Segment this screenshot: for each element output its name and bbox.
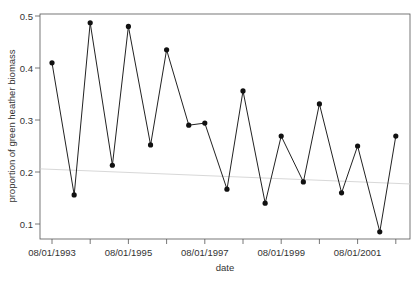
- data-point: [88, 20, 93, 25]
- x-tick-label: 08/01/1993: [28, 247, 76, 258]
- x-axis-title: date: [216, 262, 235, 273]
- data-points: [49, 20, 398, 234]
- y-tick-label: 0.2: [20, 167, 33, 178]
- line-chart: 0.10.20.30.40.5 08/01/199308/01/199508/0…: [0, 0, 418, 282]
- data-point: [126, 24, 131, 29]
- data-point: [279, 134, 284, 139]
- data-point: [148, 142, 153, 147]
- y-tick-label: 0.1: [20, 219, 33, 230]
- y-tick-label: 0.3: [20, 115, 33, 126]
- data-point: [110, 163, 115, 168]
- x-tick-label: 08/01/1999: [257, 247, 305, 258]
- data-point: [72, 192, 77, 197]
- x-tick-label: 08/01/1997: [181, 247, 229, 258]
- data-line: [52, 23, 396, 232]
- data-point: [301, 179, 306, 184]
- data-point: [393, 134, 398, 139]
- data-point: [377, 229, 382, 234]
- plot-frame: [40, 14, 410, 239]
- data-point: [355, 143, 360, 148]
- data-point: [49, 60, 54, 65]
- data-point: [339, 190, 344, 195]
- data-point: [164, 47, 169, 52]
- y-tick-label: 0.5: [20, 11, 33, 22]
- data-point: [263, 201, 268, 206]
- data-point: [224, 187, 229, 192]
- x-axis: 08/01/199308/01/199508/01/199708/01/1999…: [28, 239, 396, 258]
- data-point: [202, 121, 207, 126]
- data-point: [317, 101, 322, 106]
- trend-line: [41, 169, 410, 184]
- x-tick-label: 08/01/1995: [105, 247, 153, 258]
- data-point: [186, 123, 191, 128]
- y-axis: 0.10.20.30.40.5: [20, 11, 40, 230]
- x-tick-label: 08/01/2001: [334, 247, 382, 258]
- data-point: [240, 88, 245, 93]
- y-axis-title: proportion of green heather biomass: [6, 49, 17, 202]
- y-tick-label: 0.4: [20, 63, 33, 74]
